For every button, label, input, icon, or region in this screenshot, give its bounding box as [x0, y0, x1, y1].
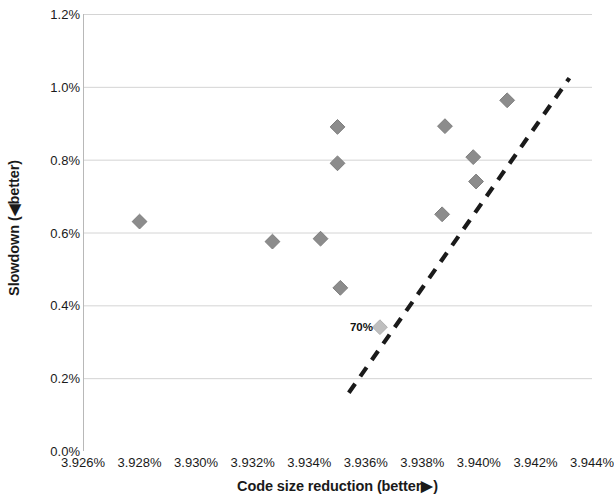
y-axis-tick-labels: 0.0%0.2%0.4%0.6%0.8%1.0%1.2% — [28, 0, 80, 500]
data-point-marker — [330, 119, 345, 134]
data-point-marker — [500, 93, 515, 108]
x-axis-tick-labels: 3.926%3.928%3.930%3.932%3.934%3.936%3.93… — [0, 455, 607, 479]
data-point-label: 70% — [350, 321, 380, 333]
x-axis-tick-label: 3.926% — [61, 455, 105, 470]
x-axis-tick-label: 3.942% — [513, 455, 557, 470]
y-axis-tick-label: 1.2% — [34, 7, 80, 22]
x-axis-tick-label: 3.934% — [287, 455, 331, 470]
data-point-marker — [466, 150, 481, 165]
data-point-marker — [313, 231, 328, 246]
x-axis-tick-label: 3.930% — [174, 455, 218, 470]
x-axis-tick-label: 3.932% — [231, 455, 275, 470]
x-axis-title: Code size reduction (better▶) — [83, 478, 592, 494]
x-axis-tick-label: 3.944% — [570, 455, 614, 470]
data-point-marker — [265, 234, 280, 249]
y-axis-title-text: Slowdown (◀better) — [6, 160, 22, 296]
x-axis-tick-label: 3.928% — [118, 455, 162, 470]
trend-line — [349, 78, 570, 393]
data-point-marker — [132, 214, 147, 229]
data-point-marker — [333, 280, 348, 295]
data-point-marker — [330, 156, 345, 171]
data-point-marker — [438, 119, 453, 134]
x-axis-tick-label: 3.936% — [344, 455, 388, 470]
data-point-marker — [435, 207, 450, 222]
y-axis-title: Slowdown (◀better) — [0, 0, 28, 455]
plot-area: 70% — [83, 14, 592, 451]
y-axis-tick-label: 0.4% — [34, 298, 80, 313]
y-axis-tick-label: 1.0% — [34, 79, 80, 94]
x-axis-tick-label: 3.940% — [457, 455, 501, 470]
y-axis-tick-label: 0.6% — [34, 225, 80, 240]
y-axis-tick-label: 0.2% — [34, 371, 80, 386]
x-axis-tick-label: 3.938% — [400, 455, 444, 470]
y-axis-tick-label: 0.8% — [34, 152, 80, 167]
plot-svg — [83, 14, 592, 451]
data-point-marker — [469, 174, 484, 189]
